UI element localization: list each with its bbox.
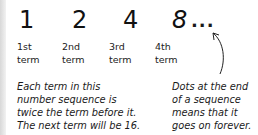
term-word: term — [155, 53, 178, 66]
term-label-3: 3rd term — [109, 40, 132, 66]
ellipsis: ... — [191, 14, 215, 28]
term-ordinal: 4th — [155, 40, 178, 53]
note-line: The next term will be 16. — [17, 119, 140, 132]
term-ordinal: 1st — [17, 40, 40, 53]
term-word: term — [109, 53, 132, 66]
left-note: Each term in this number sequence is twi… — [17, 80, 140, 132]
note-line: number sequence is — [17, 93, 140, 106]
note-line: goes on forever. — [172, 119, 251, 132]
term-value-1: 1 — [19, 7, 34, 33]
term-word: term — [62, 53, 85, 66]
right-note: Dots at the end of a sequence means that… — [172, 80, 251, 132]
curved-arrow-icon — [210, 30, 230, 76]
term-label-1: 1st term — [17, 40, 40, 66]
page-gutter — [0, 0, 6, 135]
note-line: twice the term before it. — [17, 106, 140, 119]
term-label-2: 2nd term — [62, 40, 85, 66]
term-label-4: 4th term — [155, 40, 178, 66]
note-line: Dots at the end — [172, 80, 251, 93]
note-line: means that it — [172, 106, 251, 119]
term-ordinal: 3rd — [109, 40, 132, 53]
term-value-2: 2 — [72, 7, 87, 33]
term-value-3: 4 — [123, 7, 138, 33]
term-ordinal: 2nd — [62, 40, 85, 53]
note-line: of a sequence — [172, 93, 251, 106]
note-line: Each term in this — [17, 80, 140, 93]
term-value-4: 8 — [172, 7, 187, 33]
term-word: term — [17, 53, 40, 66]
